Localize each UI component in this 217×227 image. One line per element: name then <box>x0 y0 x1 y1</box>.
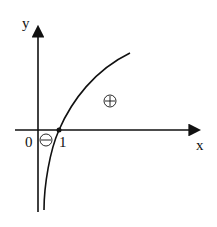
origin-label: 0 <box>25 135 33 150</box>
log-curve <box>44 53 130 210</box>
intercept-point <box>57 128 62 133</box>
point-label: 1 <box>59 135 67 150</box>
y-axis-label: y <box>22 16 30 31</box>
graph <box>0 0 217 227</box>
x-axis-label: x <box>196 138 204 153</box>
